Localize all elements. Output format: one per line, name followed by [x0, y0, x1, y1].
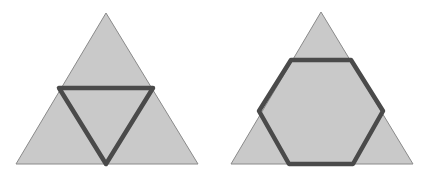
figure — [0, 0, 430, 174]
left-panel — [16, 13, 198, 164]
diagram-canvas — [0, 0, 430, 174]
right-panel — [231, 12, 413, 164]
right-outer-triangle — [231, 12, 413, 164]
